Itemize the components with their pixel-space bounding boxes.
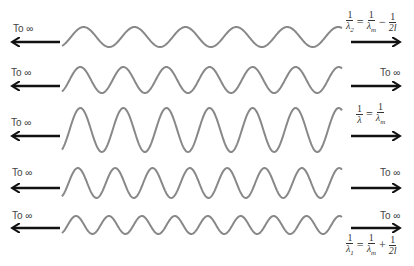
equals-sign: = xyxy=(357,238,364,253)
right-label-row-4: To ∞ xyxy=(380,167,400,178)
formula-lambda2: 1λ2 = 1λm − 12l xyxy=(345,10,398,35)
left-label-row-5: To ∞ xyxy=(12,210,32,221)
equals-sign: = xyxy=(357,15,364,30)
formula-sub: m xyxy=(371,249,376,257)
formula-sub: 2 xyxy=(350,26,354,34)
formula-den: 2l xyxy=(389,23,397,33)
formula-sub: 1 xyxy=(350,249,354,257)
equals-sign: = xyxy=(366,107,373,122)
plus-sign: + xyxy=(379,238,386,253)
formula-sub: m xyxy=(380,118,385,126)
left-label-row-4: To ∞ xyxy=(12,167,32,178)
wave-row-5 xyxy=(62,216,342,234)
wave-row-1 xyxy=(62,27,342,47)
wave-row-2 xyxy=(62,67,342,93)
formula-den: λ xyxy=(357,114,361,125)
waves-group xyxy=(62,27,342,234)
left-label-row-3: To ∞ xyxy=(11,117,31,128)
formula-lambda1: 1λ1 = 1λm + 12l xyxy=(345,233,398,258)
formula-den: 2l xyxy=(389,246,397,256)
wave-row-3 xyxy=(62,108,342,152)
minus-sign: − xyxy=(379,15,386,30)
standing-wave-diagram xyxy=(0,0,414,266)
wave-row-4 xyxy=(62,168,342,198)
left-label-row-2: To ∞ xyxy=(11,67,31,78)
right-label-row-2: To ∞ xyxy=(380,67,400,78)
right-label-row-5: To ∞ xyxy=(380,210,400,221)
formula-lambda: 1λ = 1λm xyxy=(355,102,386,127)
formula-sub: m xyxy=(371,26,376,34)
left-label-row-1: To ∞ xyxy=(13,23,33,34)
